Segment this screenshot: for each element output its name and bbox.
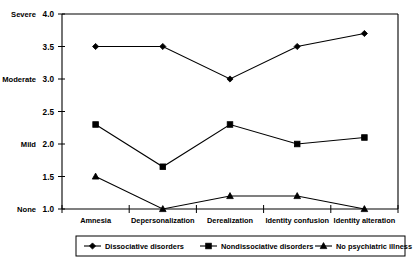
- data-point-diamond: [227, 76, 233, 82]
- y-anchor-label-moderate: Moderate: [2, 75, 36, 84]
- y-tick-label: 3.0: [43, 75, 55, 84]
- y-tick-label: 1.5: [43, 173, 55, 182]
- data-point-square: [93, 122, 99, 128]
- y-axis-tick-labels: 1.01.52.02.53.03.54.0: [43, 10, 55, 214]
- x-category-label: Derealization: [207, 216, 253, 225]
- y-axis-anchor-labels: SevereModerateMildNone: [2, 10, 36, 214]
- legend-label: Nondissociative disorders: [221, 242, 313, 251]
- x-category-label: Amnesia: [80, 216, 112, 225]
- line-chart-figure: 1.01.52.02.53.03.54.0 SevereModerateMild…: [0, 0, 413, 262]
- chart-svg: 1.01.52.02.53.03.54.0 SevereModerateMild…: [0, 0, 413, 262]
- x-category-label: Identity confusion: [265, 216, 329, 225]
- y-tick-label: 3.5: [43, 43, 55, 52]
- data-point-diamond: [361, 30, 367, 36]
- legend-marker-square: [206, 243, 212, 249]
- legend-label: No psychiatric illness: [336, 242, 412, 251]
- x-category-label: Identity alteration: [334, 216, 396, 225]
- series-line: [96, 125, 365, 167]
- data-point-diamond: [294, 43, 300, 49]
- series-nondissociative-disorders: [93, 122, 367, 170]
- y-tick-label: 2.5: [43, 108, 55, 117]
- y-anchor-label-none: None: [17, 205, 36, 214]
- data-point-diamond: [160, 43, 166, 49]
- legend-label: Dissociative disorders: [105, 242, 184, 251]
- legend-items: Dissociative disordersNondissociative di…: [84, 242, 412, 251]
- legend: Dissociative disordersNondissociative di…: [76, 236, 412, 256]
- y-anchor-label-mild: Mild: [21, 140, 37, 149]
- data-point-triangle: [92, 173, 99, 179]
- x-category-label: Depersonalization: [131, 216, 195, 225]
- data-point-square: [362, 135, 368, 141]
- y-tick-label: 1.0: [43, 205, 55, 214]
- data-point-square: [227, 122, 233, 128]
- y-tick-label: 4.0: [43, 10, 55, 19]
- data-point-square: [294, 141, 300, 147]
- series-no-psychiatric-illness: [92, 173, 367, 212]
- y-anchor-label-severe: Severe: [11, 10, 36, 19]
- series-dissociative-disorders: [93, 30, 368, 82]
- data-point-diamond: [93, 43, 99, 49]
- y-tick-label: 2.0: [43, 140, 55, 149]
- series-line: [96, 34, 365, 80]
- x-axis-category-labels: AmnesiaDepersonalizationDerealizationIde…: [80, 216, 395, 225]
- plot-frame: [62, 14, 398, 209]
- data-point-square: [160, 164, 166, 170]
- data-series-layer: [92, 30, 367, 211]
